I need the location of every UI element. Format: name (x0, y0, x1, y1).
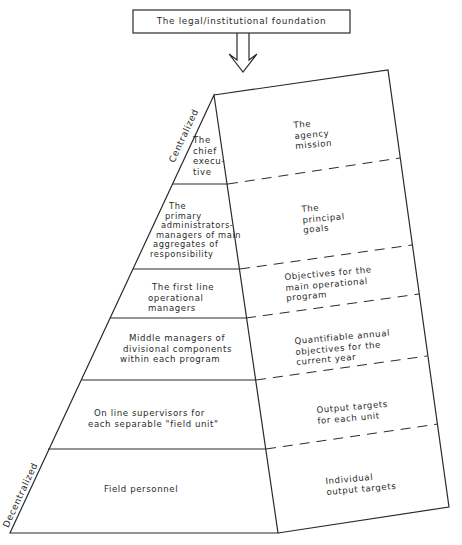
pyramid-front-face (10, 95, 278, 533)
objective-divider (266, 424, 438, 449)
objective-divider (228, 158, 400, 184)
personnel-level-3: The first line operational managers (148, 282, 214, 314)
personnel-level-2: The primary administrators- managers of … (152, 202, 241, 260)
objective-level-1: The agency mission (293, 117, 333, 152)
foundation-label: The legal/institutional foundation (133, 10, 350, 33)
personnel-level-1: The chief execu- tive (193, 135, 225, 177)
personnel-level-4: Middle managers of divisional components… (120, 333, 232, 365)
personnel-level-6: Field personnel (104, 484, 178, 495)
down-arrow-icon (229, 33, 257, 72)
pyramid-drawing (0, 0, 462, 545)
objective-level-2: The principal goals (301, 200, 346, 235)
objective-divider (240, 245, 412, 269)
personnel-level-5: On line supervisors for each separable "… (88, 408, 219, 429)
